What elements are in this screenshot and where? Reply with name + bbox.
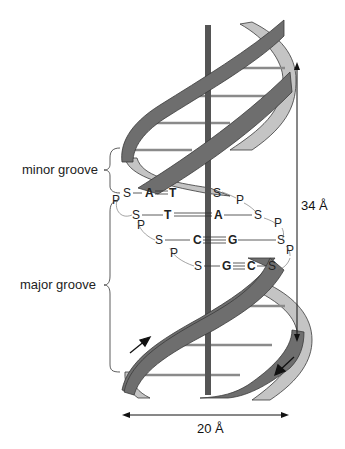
major-groove-label: major groove [20,277,96,292]
minor-groove-label: minor groove [22,162,98,177]
svg-text:P: P [170,246,178,260]
dna-helix-diagram: P S A T S P S T A S P P S C G S P P S [0,0,345,449]
major-groove-annotation: major groove [20,201,120,372]
minor-groove-annotation: minor groove [22,148,120,193]
major-groove-brace [104,201,120,372]
svg-text:S: S [268,259,276,273]
svg-text:A: A [214,208,223,222]
svg-text:S: S [277,233,285,247]
svg-text:P: P [236,193,244,207]
arrowhead-right-icon [281,412,289,418]
svg-text:S: S [254,208,262,222]
svg-text:S: S [213,186,221,200]
svg-text:C: C [193,233,202,247]
front-strand-ribbon [122,20,304,398]
svg-text:T: T [164,208,172,222]
svg-text:S: S [123,186,131,200]
svg-text:G: G [228,233,237,247]
pitch-label: 34 Å [301,198,328,213]
svg-text:S: S [155,233,163,247]
svg-text:T: T [169,186,177,200]
minor-groove-brace [104,148,120,193]
svg-text:A: A [145,186,154,200]
pitch-dimension: 34 Å [294,62,328,342]
svg-text:S: S [194,259,202,273]
diameter-dimension: 20 Å [122,412,289,436]
arrowhead-left-icon [122,412,130,418]
svg-text:P: P [137,218,145,232]
arrowhead-up-icon [294,62,300,70]
diameter-label: 20 Å [197,421,224,436]
svg-text:C: C [247,259,256,273]
svg-text:G: G [222,259,231,273]
